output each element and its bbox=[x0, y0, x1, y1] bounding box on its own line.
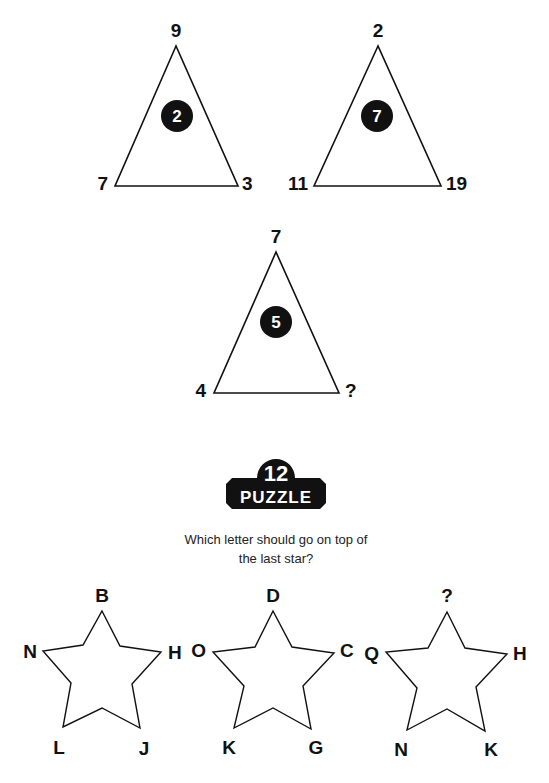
bottom-left-letter: L bbox=[53, 737, 65, 758]
top-number: 7 bbox=[271, 226, 282, 247]
star-1: B N H L J bbox=[23, 585, 181, 759]
top-letter: D bbox=[266, 585, 280, 606]
bottom-right-letter: J bbox=[139, 738, 150, 759]
puzzle-badge: 12 PUZZLE bbox=[226, 459, 326, 509]
left-number: 7 bbox=[97, 173, 108, 194]
left-number: 4 bbox=[195, 380, 206, 401]
center-number: 5 bbox=[271, 313, 280, 332]
star-shape bbox=[213, 611, 334, 729]
badge-word: PUZZLE bbox=[240, 488, 312, 507]
star-shape bbox=[43, 611, 161, 728]
right-number: 3 bbox=[242, 173, 253, 194]
left-number: 11 bbox=[288, 173, 309, 194]
triangle-1: 2 9 7 3 bbox=[97, 20, 252, 194]
center-number: 2 bbox=[172, 107, 181, 126]
right-number: 19 bbox=[446, 173, 467, 194]
top-number: 9 bbox=[171, 20, 182, 41]
badge-number: 12 bbox=[264, 461, 288, 486]
star-2: D O C K G bbox=[191, 585, 354, 758]
left-letter: Q bbox=[364, 643, 379, 664]
question-line-1: Which letter should go on top of bbox=[150, 530, 402, 549]
bottom-right-letter: K bbox=[484, 739, 498, 760]
star-3: ? Q H N K bbox=[364, 585, 527, 760]
right-letter: H bbox=[513, 643, 527, 664]
top-letter: B bbox=[95, 585, 109, 606]
right-letter: C bbox=[340, 640, 354, 661]
right-number-unknown: ? bbox=[345, 380, 357, 401]
top-letter-unknown: ? bbox=[441, 585, 453, 606]
triangle-2: 7 2 11 19 bbox=[288, 20, 467, 194]
triangle-3: 5 7 4 ? bbox=[195, 226, 356, 401]
question-line-2: the last star? bbox=[150, 549, 402, 568]
right-letter: H bbox=[168, 642, 182, 663]
question-text: Which letter should go on top of the las… bbox=[150, 530, 402, 568]
bottom-left-letter: K bbox=[222, 737, 236, 758]
top-number: 2 bbox=[373, 20, 384, 41]
center-number: 7 bbox=[372, 107, 381, 126]
left-letter: O bbox=[191, 640, 206, 661]
bottom-left-letter: N bbox=[394, 739, 408, 760]
left-letter: N bbox=[23, 641, 37, 662]
bottom-right-letter: G bbox=[309, 737, 324, 758]
puzzle-page: 2 9 7 3 7 2 11 19 5 7 4 ? 12 PUZZLE B N … bbox=[0, 0, 549, 783]
star-shape bbox=[386, 612, 507, 731]
